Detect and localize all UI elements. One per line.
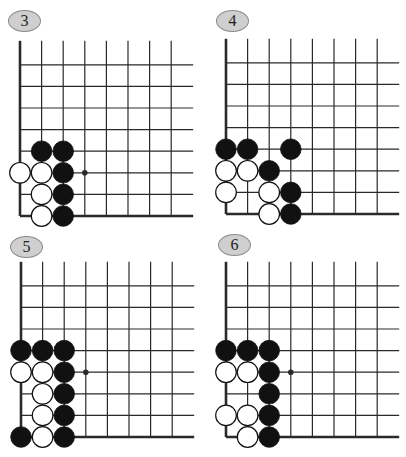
black-stone bbox=[216, 340, 237, 361]
black-stone bbox=[259, 340, 280, 361]
black-stone bbox=[259, 427, 280, 448]
black-stone bbox=[259, 362, 280, 383]
diagram-number-badge: 6 bbox=[218, 234, 251, 256]
black-stone bbox=[259, 384, 280, 405]
white-stone bbox=[237, 405, 258, 426]
black-stone bbox=[237, 340, 258, 361]
black-stone bbox=[259, 405, 280, 426]
white-stone bbox=[237, 427, 258, 448]
white-stone bbox=[216, 405, 237, 426]
go-grid bbox=[0, 0, 406, 457]
white-stone bbox=[237, 362, 258, 383]
star-point bbox=[288, 369, 294, 375]
white-stone bbox=[216, 362, 237, 383]
